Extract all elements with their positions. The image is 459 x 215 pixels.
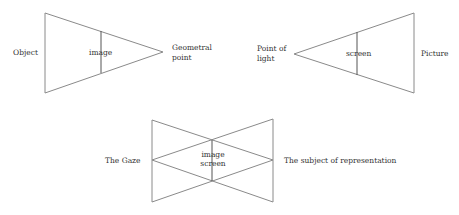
object-label: Object <box>13 48 38 57</box>
point-of-light-label-line2: light <box>257 54 274 63</box>
image-label: image <box>89 48 112 57</box>
diagrams-canvas <box>0 0 459 215</box>
picture-label: Picture <box>421 49 449 58</box>
point-of-light-label-line1: Point of <box>257 44 286 53</box>
subject-of-representation-label: The subject of representation <box>284 156 396 165</box>
geometral-point-label-line1: Geometral <box>172 43 212 52</box>
screen-label: screen <box>346 49 371 58</box>
image-screen-label-line1: image <box>198 150 228 159</box>
geometral-point-label-line2: point <box>172 53 192 62</box>
gaze-label: The Gaze <box>105 156 141 165</box>
image-screen-label-line2: screen <box>198 159 228 168</box>
